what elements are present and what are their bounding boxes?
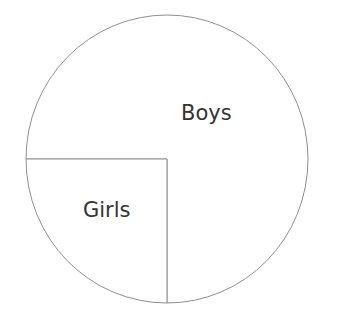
pie-chart: Boys Girls — [0, 0, 338, 315]
label-boys: Boys — [181, 101, 232, 125]
slice-girls — [26, 159, 167, 303]
label-girls: Girls — [83, 198, 131, 222]
